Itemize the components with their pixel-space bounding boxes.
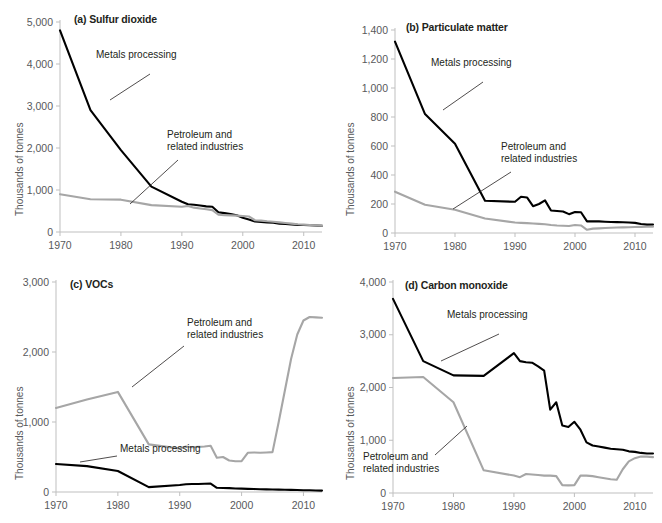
annotation-leader: [443, 82, 483, 110]
annotation-leader: [132, 346, 184, 387]
y-tick-label: 800: [370, 111, 388, 123]
y-tick-label: 200: [370, 198, 388, 210]
series-line: [60, 194, 322, 225]
x-tick-label: 2000: [231, 239, 255, 251]
panel-c-plot: 01,0002,0003,00019701980199020002010Petr…: [0, 262, 331, 523]
series-annotation-label: Metals processing: [120, 443, 201, 454]
panel-c-vocs: Thousands of tonnes (c) VOCs 01,0002,000…: [0, 262, 331, 523]
series-annotation-label: related industries: [363, 463, 439, 474]
panel-b-plot: 02004006008001,0001,2001,400197019801990…: [331, 0, 662, 262]
series-annotation-label: related industries: [501, 153, 577, 164]
panel-d-carbon-monoxide: Thousands of tonnes (d) Carbon monoxide …: [331, 262, 662, 523]
y-tick-label: 5,000: [27, 16, 53, 28]
x-tick-label: 2010: [292, 239, 316, 251]
annotation-leader: [441, 334, 499, 361]
emissions-figure: Thousands of tonnes (a) Sulfur dioxide 0…: [0, 0, 662, 523]
x-tick-label: 1990: [170, 239, 194, 251]
y-tick-label: 4,000: [360, 276, 386, 288]
annotation-leader: [80, 456, 117, 462]
x-tick-label: 1990: [168, 499, 192, 511]
y-tick-label: 2,000: [23, 346, 49, 358]
y-tick-label: 1,000: [27, 184, 53, 196]
series-line: [56, 464, 322, 491]
x-tick-label: 1990: [502, 500, 526, 512]
y-tick-label: 0: [47, 226, 53, 238]
x-tick-label: 2010: [623, 240, 647, 252]
x-tick-label: 1970: [383, 240, 407, 252]
annotation-leader: [453, 172, 511, 209]
panel-a-plot: 01,0002,0003,0004,0005,00019701980199020…: [0, 0, 331, 262]
x-tick-label: 2000: [563, 500, 587, 512]
y-tick-label: 1,400: [362, 24, 388, 36]
x-tick-label: 2010: [623, 500, 647, 512]
x-tick-label: 1980: [106, 499, 130, 511]
panel-d-plot: 01,0002,0003,0004,0001970198019902000201…: [331, 262, 662, 523]
x-tick-label: 1970: [48, 239, 72, 251]
x-tick-label: 2010: [292, 499, 316, 511]
y-tick-label: 4,000: [27, 58, 53, 70]
series-line: [393, 299, 653, 454]
x-tick-label: 1980: [109, 239, 133, 251]
y-tick-label: 0: [43, 486, 49, 498]
y-tick-label: 1,200: [362, 53, 388, 65]
series-annotation-label: related industries: [187, 329, 263, 340]
series-annotation-label: Petroleum and: [167, 129, 232, 140]
x-tick-label: 2000: [230, 499, 254, 511]
series-line: [395, 42, 653, 225]
y-tick-label: 0: [380, 487, 386, 499]
panel-b-particulate-matter: Thousands of tonnes (b) Particulate matt…: [331, 0, 662, 262]
y-tick-label: 1,000: [360, 434, 386, 446]
y-tick-label: 2,000: [27, 142, 53, 154]
series-annotation-label: Metals processing: [431, 57, 512, 68]
x-tick-label: 1980: [442, 500, 466, 512]
series-annotation-label: Petroleum and: [363, 451, 428, 462]
series-annotation-label: related industries: [167, 141, 243, 152]
y-tick-label: 600: [370, 140, 388, 152]
x-tick-label: 1980: [443, 240, 467, 252]
y-tick-label: 2,000: [360, 381, 386, 393]
series-annotation-label: Petroleum and: [187, 317, 252, 328]
series-annotation-label: Metals processing: [96, 49, 177, 60]
y-tick-label: 3,000: [23, 276, 49, 288]
x-tick-label: 1970: [381, 500, 405, 512]
panel-a-sulfur-dioxide: Thousands of tonnes (a) Sulfur dioxide 0…: [0, 0, 331, 262]
y-tick-label: 0: [382, 227, 388, 239]
y-tick-label: 3,000: [27, 100, 53, 112]
x-tick-label: 2000: [563, 240, 587, 252]
y-tick-label: 400: [370, 169, 388, 181]
series-annotation-label: Petroleum and: [501, 141, 566, 152]
annotation-leader: [435, 426, 467, 455]
x-tick-label: 1990: [503, 240, 527, 252]
y-tick-label: 3,000: [360, 328, 386, 340]
series-annotation-label: Metals processing: [447, 309, 528, 320]
y-tick-label: 1,000: [362, 82, 388, 94]
y-tick-label: 1,000: [23, 416, 49, 428]
annotation-leader: [110, 74, 150, 100]
x-tick-label: 1970: [44, 499, 68, 511]
